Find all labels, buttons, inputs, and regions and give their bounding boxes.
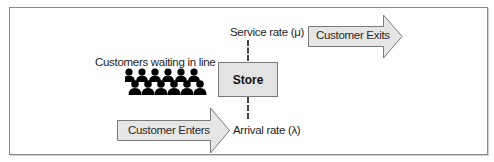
arrival-rate-connector	[247, 97, 249, 119]
service-rate-label: Service rate (μ)	[230, 26, 304, 39]
enter-arrow-label: Customer Enters	[128, 124, 210, 137]
arrival-rate-label: Arrival rate (λ)	[233, 124, 300, 137]
store-label: Store	[233, 73, 264, 87]
store-box: Store	[218, 62, 278, 97]
service-rate-connector	[247, 40, 249, 61]
people-group-icon	[125, 68, 209, 98]
exit-arrow-label: Customer Exits	[316, 29, 390, 42]
